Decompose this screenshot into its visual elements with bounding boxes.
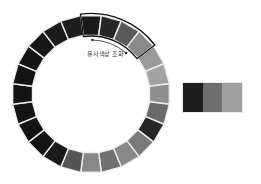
swatch-1 — [183, 83, 203, 112]
color-segment — [81, 152, 102, 172]
arrow-end-dot — [91, 39, 93, 41]
color-wheel-segments — [13, 16, 170, 173]
color-segment — [81, 16, 102, 36]
harmony-label: 유사색상 조화 — [87, 49, 124, 58]
arrow-end-dot — [125, 52, 127, 54]
swatch-strip — [182, 82, 243, 113]
color-segment — [13, 84, 33, 105]
swatch-2 — [203, 83, 223, 112]
swatch-3 — [222, 83, 242, 112]
color-segment — [149, 84, 169, 105]
